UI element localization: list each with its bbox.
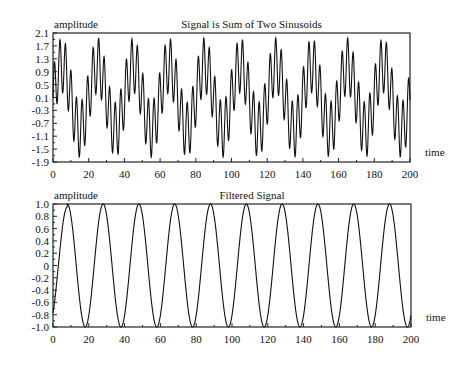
top-y-tick-label: 0.5 — [35, 79, 49, 91]
top-x-tick-label: 0 — [50, 168, 56, 180]
bottom-x-tick-label: 120 — [260, 333, 277, 345]
bottom-x-axis-label: time — [426, 311, 446, 323]
top-x-tick-label: 120 — [259, 168, 276, 180]
top-x-axis-label: time — [425, 146, 445, 158]
bottom-y-axis-label: amplitude — [54, 189, 98, 201]
top-x-tick-label: 20 — [83, 168, 95, 180]
bottom-x-tick-label: 60 — [155, 333, 167, 345]
top-y-tick-label: -0.3 — [32, 104, 50, 116]
top-x-tick-label: 60 — [155, 168, 167, 180]
bottom-y-tick-label: -0.4 — [32, 284, 50, 296]
bottom-plot-frame — [53, 204, 411, 327]
top-signal-line — [53, 38, 410, 157]
bottom-y-tick-label: 1.0 — [35, 198, 49, 210]
bottom-x-tick-label: 100 — [224, 333, 241, 345]
bottom-y-tick-label: -0.2 — [32, 272, 49, 284]
top-x-tick-label: 160 — [330, 168, 347, 180]
top-plot-frame — [53, 33, 410, 162]
bottom-y-tick-label: 0 — [44, 260, 50, 272]
top-y-tick-label: 2.1 — [35, 27, 49, 39]
top-y-tick-label: 0.9 — [35, 66, 49, 78]
top-y-tick-label: 1.3 — [35, 53, 49, 65]
bottom-x-tick-label: 80 — [191, 333, 203, 345]
top-y-tick-label: -0.7 — [32, 117, 50, 129]
top-y-axis-label: amplitude — [54, 18, 98, 30]
top-y-tick-label: 0.1 — [35, 92, 49, 104]
top-x-tick-label: 40 — [119, 168, 131, 180]
chart-canvas: 2.11.71.30.90.50.1-0.3-0.7-1.1-1.5-1.902… — [0, 0, 470, 370]
bottom-signal-line — [53, 204, 411, 327]
bottom-x-tick-label: 20 — [83, 333, 95, 345]
top-x-tick-label: 100 — [223, 168, 240, 180]
top-y-tick-label: -1.9 — [32, 156, 50, 168]
bottom-y-tick-label: 0.2 — [35, 247, 49, 259]
bottom-x-tick-label: 200 — [403, 333, 420, 345]
top-x-tick-label: 140 — [295, 168, 312, 180]
bottom-x-tick-label: 40 — [119, 333, 131, 345]
bottom-y-tick-label: -0.8 — [32, 309, 50, 321]
top-x-tick-label: 180 — [366, 168, 383, 180]
bottom-y-tick-label: -0.6 — [32, 296, 50, 308]
bottom-x-tick-label: 140 — [295, 333, 312, 345]
top-x-tick-label: 200 — [402, 168, 419, 180]
top-y-tick-label: 1.7 — [35, 40, 49, 52]
top-title: Signal is Sum of Two Sinusoids — [181, 18, 322, 30]
top-y-tick-label: -1.5 — [32, 143, 50, 155]
bottom-y-tick-label: 0.8 — [35, 210, 49, 222]
bottom-y-tick-label: 0.4 — [35, 235, 49, 247]
bottom-x-tick-label: 180 — [367, 333, 384, 345]
bottom-x-tick-label: 160 — [331, 333, 348, 345]
bottom-y-tick-label: -1.0 — [32, 321, 50, 333]
bottom-x-tick-label: 0 — [50, 333, 56, 345]
top-x-tick-label: 80 — [190, 168, 202, 180]
bottom-y-tick-label: 0.6 — [35, 223, 49, 235]
top-y-tick-label: -1.1 — [32, 130, 49, 142]
bottom-title: Filtered Signal — [219, 189, 284, 201]
